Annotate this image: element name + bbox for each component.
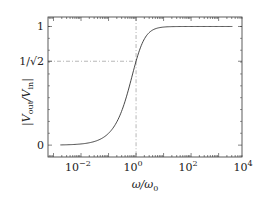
svg-text:ω/ω0: ω/ω0 — [132, 178, 159, 193]
x-axis-label-omega: ω/ω — [132, 178, 154, 191]
plot-area — [48, 17, 232, 157]
x-tick-label: 100 — [124, 159, 143, 174]
x-tick-label: 102 — [179, 159, 198, 174]
svg-text:|Vout/Vin|: |Vout/Vin| — [20, 78, 35, 126]
y-tick-label: 0 — [37, 139, 44, 152]
y-tick-label: 1/√2 — [19, 55, 44, 68]
x-axis-label: ω/ω0 — [132, 178, 159, 193]
x-tick-label: 104 — [233, 159, 252, 174]
series-line — [60, 26, 232, 144]
y-tick-label: 1 — [37, 20, 44, 33]
x-axis-label-sub: 0 — [153, 184, 158, 193]
x-tick-label: 10−2 — [65, 159, 91, 174]
chart: 10−210010210401/√21 ω/ω0 |Vout/Vin| — [0, 0, 257, 197]
y-axis-label: |Vout/Vin| — [20, 78, 35, 126]
